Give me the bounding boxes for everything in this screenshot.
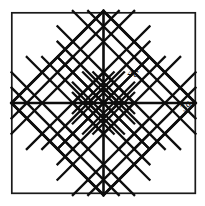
label-4c: 4c (128, 67, 139, 79)
geometric-figure-container: 4c 3a (0, 0, 205, 206)
dissection-diagram: 4c 3a (0, 0, 205, 206)
